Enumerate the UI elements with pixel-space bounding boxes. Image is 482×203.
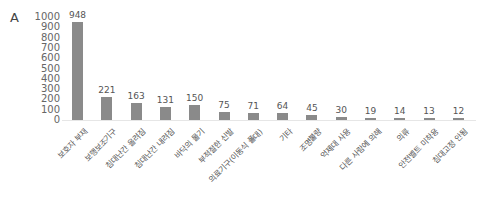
bar (336, 117, 347, 120)
bar-value-label: 19 (365, 106, 376, 116)
bar-value-label: 948 (69, 10, 86, 20)
bar (189, 105, 200, 120)
bar-value-label: 163 (128, 91, 145, 101)
bar (248, 113, 259, 120)
bar-value-label: 71 (248, 101, 259, 111)
x-category-label: 의료기구(이동식 폴대) (206, 126, 265, 185)
bar-value-label: 14 (394, 106, 405, 116)
bar (160, 107, 171, 120)
bar-value-label: 12 (453, 106, 464, 116)
bar-value-label: 13 (423, 106, 434, 116)
bar (394, 118, 405, 120)
bar-value-label: 150 (186, 93, 203, 103)
bar (101, 97, 112, 120)
x-category-label: 의류 (394, 126, 412, 144)
bar-value-label: 30 (335, 105, 346, 115)
bar (131, 103, 142, 120)
bar-value-label: 131 (157, 95, 174, 105)
x-category-label: 기타 (277, 126, 295, 144)
x-axis-baseline (62, 120, 476, 121)
bar-value-label: 64 (277, 101, 288, 111)
bar (219, 112, 230, 120)
bar (453, 118, 464, 120)
bar (72, 22, 83, 120)
bar (424, 118, 435, 120)
bar-value-label: 221 (98, 85, 115, 95)
bar (306, 115, 317, 120)
bar-chart: 948보호자 부재221보행보조기구163침대난간 올려짐131침대난간 내려짐… (0, 0, 482, 203)
bar-value-label: 75 (218, 100, 229, 110)
bar (365, 118, 376, 120)
bar (277, 113, 288, 120)
bar-value-label: 45 (306, 103, 317, 113)
